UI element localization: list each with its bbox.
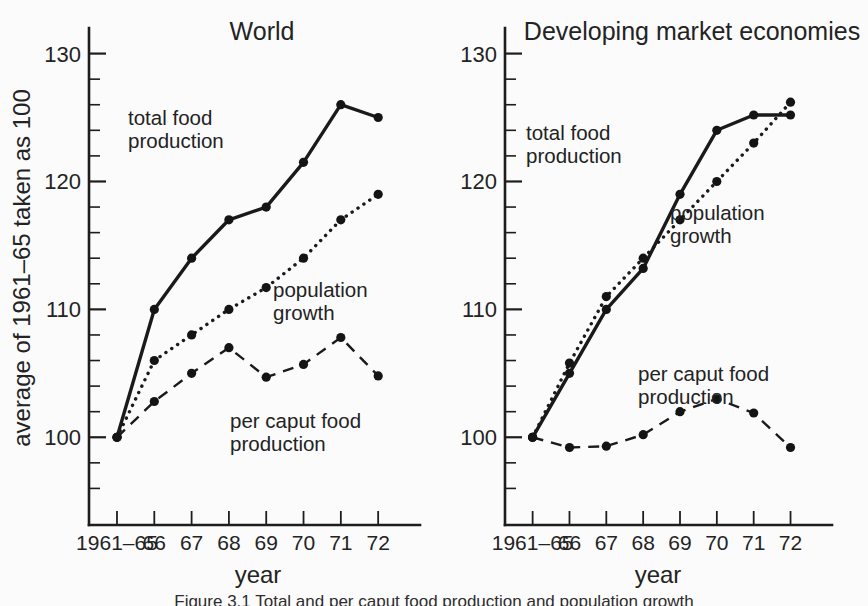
chart-panel-world: World average of 1961–65 taken as 100 10… xyxy=(0,0,440,606)
data-point-marker xyxy=(374,113,383,122)
data-point-marker xyxy=(786,110,795,119)
data-point-marker xyxy=(150,305,159,314)
y-axis-tick-labels-right: 100110120130 xyxy=(460,42,497,451)
x-axis-ticks-left xyxy=(117,511,378,525)
y-tick-label: 110 xyxy=(462,297,497,322)
x-tick-label: 71 xyxy=(329,531,352,554)
y-axis-ticks-right xyxy=(505,54,522,489)
data-point-marker xyxy=(602,305,611,314)
data-point-marker xyxy=(299,254,308,263)
data-point-marker xyxy=(150,356,159,365)
data-point-marker xyxy=(639,254,648,263)
data-point-marker xyxy=(565,443,574,452)
figure-caption: Figure 3.1 Total and per caput food prod… xyxy=(0,592,868,606)
data-point-marker xyxy=(262,373,271,382)
annotation-percaput-line1: per caput food xyxy=(638,362,769,385)
data-point-marker xyxy=(528,433,537,442)
x-tick-label: 71 xyxy=(742,531,765,554)
data-point-marker xyxy=(187,254,196,263)
y-tick-label: 100 xyxy=(460,425,497,450)
x-tick-label: 70 xyxy=(292,531,315,554)
annotation-total-line1: total food xyxy=(128,106,212,129)
y-tick-label: 130 xyxy=(460,42,497,67)
x-tick-label: 68 xyxy=(631,531,654,554)
annotation-population-line1: population xyxy=(670,201,765,224)
data-point-marker xyxy=(187,369,196,378)
x-tick-label: 72 xyxy=(366,531,389,554)
y-tick-label: 110 xyxy=(46,297,81,322)
data-point-marker xyxy=(336,333,345,342)
x-tick-label: 69 xyxy=(255,531,278,554)
y-tick-label: 100 xyxy=(44,425,81,450)
data-point-marker xyxy=(336,215,345,224)
data-point-marker xyxy=(336,100,345,109)
data-point-marker xyxy=(224,215,233,224)
data-point-marker xyxy=(374,371,383,380)
annotation-total-line2: production xyxy=(526,144,622,167)
data-point-marker xyxy=(749,408,758,417)
data-point-marker xyxy=(224,343,233,352)
x-tick-label: 72 xyxy=(779,531,802,554)
annotation-population-line2: growth xyxy=(670,224,732,247)
x-axis-ticks-right xyxy=(533,511,791,525)
data-point-marker xyxy=(602,442,611,451)
data-point-marker xyxy=(712,177,721,186)
data-point-marker xyxy=(639,264,648,273)
panel-title-right: Developing market economies xyxy=(524,17,860,45)
y-tick-label: 120 xyxy=(460,169,497,194)
x-tick-label: 67 xyxy=(180,531,203,554)
data-point-marker xyxy=(639,430,648,439)
data-point-marker xyxy=(299,360,308,369)
data-point-marker xyxy=(602,292,611,301)
data-point-marker xyxy=(565,359,574,368)
annotation-percaput-line2: production xyxy=(230,432,326,455)
series-annotation-population-right: population growth xyxy=(670,201,765,247)
x-tick-label: 68 xyxy=(217,531,240,554)
x-axis-label-left: year xyxy=(235,561,282,588)
figure-container: World average of 1961–65 taken as 100 10… xyxy=(0,0,868,606)
data-point-marker xyxy=(224,305,233,314)
y-axis-label-left: average of 1961–65 taken as 100 xyxy=(8,89,35,447)
y-tick-label: 130 xyxy=(44,42,81,67)
panel-title-left: World xyxy=(230,17,295,45)
series-annotation-total-left: total food production xyxy=(128,106,224,152)
chart-panel-developing: Developing market economies 100110120130… xyxy=(430,0,868,606)
annotation-population-line1: population xyxy=(273,278,368,301)
x-axis-tick-labels-right: 1961–6566676869707172 xyxy=(492,531,802,554)
data-point-marker xyxy=(749,139,758,148)
data-point-marker xyxy=(675,407,684,416)
annotation-total-line2: production xyxy=(128,129,224,152)
x-tick-label: 66 xyxy=(558,531,581,554)
x-axis-label-right: year xyxy=(635,561,682,588)
data-point-marker xyxy=(262,203,271,212)
annotation-percaput-line1: per caput food xyxy=(230,409,361,432)
data-point-marker xyxy=(565,369,574,378)
annotation-percaput-line2: production xyxy=(638,385,734,408)
data-point-marker xyxy=(150,397,159,406)
x-tick-label: 67 xyxy=(595,531,618,554)
y-axis-ticks-left xyxy=(89,54,106,489)
x-tick-label: 70 xyxy=(705,531,728,554)
series-annotation-percaput-right: per caput food production xyxy=(638,362,769,408)
data-point-marker xyxy=(112,433,121,442)
x-tick-label: 66 xyxy=(143,531,166,554)
data-point-marker xyxy=(374,190,383,199)
data-point-marker xyxy=(749,110,758,119)
data-point-marker xyxy=(786,98,795,107)
data-point-marker xyxy=(712,126,721,135)
data-point-marker xyxy=(299,158,308,167)
series-line-solid xyxy=(117,105,378,438)
y-axis-tick-labels-left: 100110120130 xyxy=(44,42,81,451)
annotation-total-line1: total food xyxy=(526,121,610,144)
data-point-marker xyxy=(262,283,271,292)
data-point-marker xyxy=(187,330,196,339)
annotation-population-line2: growth xyxy=(273,301,335,324)
series-annotation-percaput-left: per caput food production xyxy=(230,409,361,455)
data-point-marker xyxy=(786,443,795,452)
data-point-marker xyxy=(675,190,684,199)
x-tick-label: 69 xyxy=(668,531,691,554)
series-annotation-total-right: total food production xyxy=(526,121,622,167)
x-axis-tick-labels-left: 1961–6566676869707172 xyxy=(76,531,390,554)
y-tick-label: 120 xyxy=(44,169,81,194)
series-annotation-population-left: population growth xyxy=(273,278,368,324)
